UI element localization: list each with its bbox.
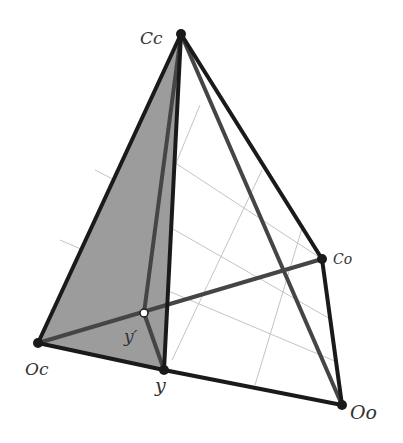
label-cc: Cc bbox=[140, 28, 163, 48]
label-y: y bbox=[154, 374, 166, 396]
tetrahedron-diagram: Cc Oc y Co Oo y′ bbox=[0, 0, 403, 443]
label-oo: Oo bbox=[350, 401, 377, 423]
vertex-cc bbox=[176, 29, 186, 39]
label-co: Co bbox=[333, 251, 352, 267]
label-oc: Oc bbox=[25, 359, 49, 379]
diagram-canvas: Cc Oc y Co Oo y′ bbox=[0, 0, 403, 443]
vertex-oc bbox=[33, 338, 43, 348]
vertex-co bbox=[317, 254, 327, 264]
label-y-prime: y′ bbox=[123, 326, 138, 346]
vertex-oo bbox=[337, 400, 347, 410]
vertex-y-prime bbox=[140, 309, 148, 317]
